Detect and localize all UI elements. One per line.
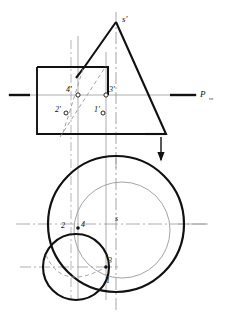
label-point-4-prime: 4' — [66, 85, 72, 94]
label-point-4: 4 — [81, 220, 85, 229]
marker-4 — [76, 226, 80, 230]
label-plane-trace: P — [199, 89, 206, 99]
cutting-plane-dashed-trace — [60, 66, 106, 137]
front-view-point-markers — [64, 93, 108, 115]
label-point-1: 1 — [106, 276, 110, 285]
label-point-3: 3 — [107, 256, 112, 265]
geometry-figure: s' 4' 3' 2' 1' P vz s 2 4 3 1 — [0, 0, 232, 319]
front-view-rectangle — [37, 67, 145, 134]
label-plane-trace-subscript: vz — [209, 96, 213, 101]
hidden-arc-top — [46, 255, 106, 277]
label-point-2-prime: 2' — [55, 105, 61, 114]
drawing-sheet: s' 4' 3' 2' 1' P vz s 2 4 3 1 — [0, 0, 232, 319]
label-point-2: 2 — [61, 221, 65, 230]
marker-3-prime — [104, 93, 108, 97]
label-point-1-prime: 1' — [94, 105, 100, 114]
marker-3 — [104, 265, 108, 269]
marker-1-prime — [101, 111, 105, 115]
label-apex-s-prime: s' — [122, 14, 129, 24]
projection-arrow-icon — [157, 137, 164, 162]
cone-left-slant-hidden — [62, 69, 83, 136]
section-circle-top — [74, 182, 170, 278]
label-point-3-prime: 3' — [108, 85, 115, 94]
front-view-cone-triangle — [62, 22, 166, 136]
marker-2-prime — [64, 111, 68, 115]
marker-4-prime — [76, 93, 80, 97]
label-center-s: s — [115, 214, 118, 223]
